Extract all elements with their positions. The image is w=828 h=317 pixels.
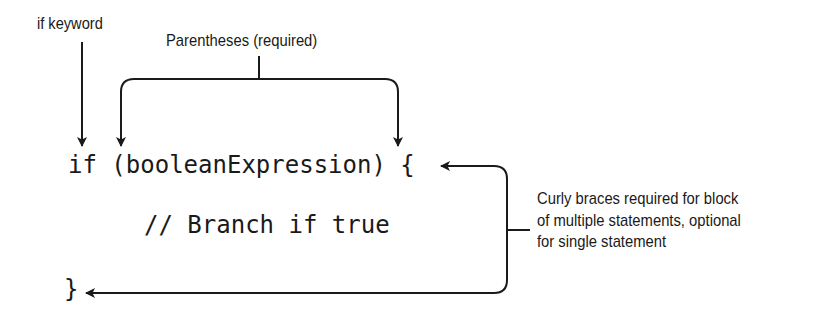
curly-braces-label-line: for single statement [537,231,741,253]
parentheses-bracket-arrow-left [121,79,259,146]
curly-braces-label-line: of multiple statements, optional [537,210,741,232]
curly-braces-label-line: Curly braces required for block [537,188,741,210]
parentheses-label: Parentheses (required) [166,31,317,51]
code-comment-line: // Branch if true [144,211,390,239]
if-statement-diagram: if keyword Parentheses (required) Curly … [0,0,828,317]
curly-braces-label: Curly braces required for block of multi… [537,188,741,253]
curly-brace-open-arrow [441,166,507,230]
curly-brace-close-arrow [86,230,507,293]
parentheses-bracket-arrow-right [259,79,398,146]
code-closing-brace: } [64,275,78,303]
if-keyword-label: if keyword [37,14,103,34]
code-if-line: if (booleanExpression) { [68,151,415,179]
